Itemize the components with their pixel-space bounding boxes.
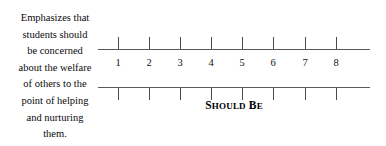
scale-tick-top-3	[180, 37, 181, 49]
prompt-line: and nurturing	[8, 110, 102, 127]
caption-word2-initial: B	[249, 99, 257, 111]
scale-option-3[interactable]: 3	[170, 56, 190, 70]
prompt-line: about the welfare	[8, 60, 102, 77]
scale-tick-top-7	[305, 37, 306, 49]
scale-option-6[interactable]: 6	[263, 56, 283, 70]
scale-option-8[interactable]: 8	[326, 56, 346, 70]
survey-scale-item: Emphasizes that students should be conce…	[0, 0, 386, 146]
scale-option-4[interactable]: 4	[201, 56, 221, 70]
item-prompt-text: Emphasizes that students should be conce…	[8, 10, 102, 143]
caption-word2-rest: E	[257, 101, 263, 111]
scale-tick-top-6	[273, 37, 274, 49]
scale-number-row: 12345678	[98, 56, 370, 84]
scale-rule-top	[98, 49, 370, 50]
scale-tick-top-1	[118, 37, 119, 49]
scale-tick-top-5	[242, 37, 243, 49]
prompt-line: them.	[8, 126, 102, 143]
scale-option-7[interactable]: 7	[295, 56, 315, 70]
prompt-line: Emphasizes that	[8, 10, 102, 27]
prompt-line: students should	[8, 27, 102, 44]
scale-option-2[interactable]: 2	[139, 56, 159, 70]
scale-option-5[interactable]: 5	[232, 56, 252, 70]
scale-tick-top-2	[149, 37, 150, 49]
scale-tick-top-4	[211, 37, 212, 49]
prompt-line: point of helping	[8, 93, 102, 110]
caption-word1-initial: S	[205, 99, 212, 111]
scale-option-1[interactable]: 1	[108, 56, 128, 70]
prompt-line: of others to the	[8, 76, 102, 93]
caption-word1-rest: HOULD	[212, 101, 246, 111]
scale-tick-top-8	[336, 37, 337, 49]
scale-caption: SHOULD BE	[98, 99, 370, 111]
prompt-line: be concerned	[8, 43, 102, 60]
